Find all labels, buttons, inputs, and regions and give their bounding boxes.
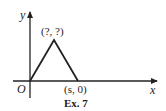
y-axis-label: y	[20, 9, 25, 21]
origin-label: O	[17, 83, 26, 95]
x-axis-label: x	[150, 84, 155, 96]
base-end-label: (s, 0)	[64, 84, 87, 95]
triangle	[30, 40, 78, 81]
figure-caption: Ex. 7	[64, 98, 88, 109]
apex-label: (?, ?)	[41, 26, 64, 37]
